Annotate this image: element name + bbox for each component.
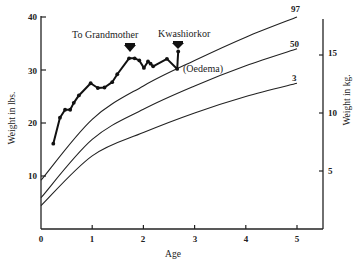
data-point <box>103 86 107 90</box>
x-tick-label-2: 2 <box>141 234 146 244</box>
x-tick-label-1: 1 <box>90 234 95 244</box>
data-point <box>77 94 81 98</box>
data-point <box>137 59 141 63</box>
oedema-spike <box>177 51 178 68</box>
y-tick-label-30: 30 <box>28 66 38 76</box>
annotation-to-grandmother: To Grandmother <box>72 29 139 40</box>
annotation-kwashiorkor: Kwashiorkor <box>158 28 211 39</box>
x-tick-label-3: 3 <box>193 234 198 244</box>
y-right-tick-label-5: 5 <box>328 166 333 176</box>
y-tick-label-40: 40 <box>28 12 38 22</box>
data-point <box>58 116 62 120</box>
data-point <box>115 72 119 76</box>
percentile-curve-3 <box>41 83 297 205</box>
y-right-tick-label-10: 10 <box>328 108 338 118</box>
y-tick-label-10: 10 <box>28 171 38 181</box>
y-right-tick-label-15: 15 <box>328 48 338 58</box>
ticks <box>41 17 323 229</box>
child-weight-series <box>51 50 180 146</box>
x-tick-label-5: 5 <box>295 234 300 244</box>
data-point <box>176 50 180 54</box>
y-axis-title-left: Weight in lbs. <box>7 92 17 145</box>
data-point <box>68 108 72 112</box>
weight-line <box>53 58 177 143</box>
data-point <box>151 64 155 68</box>
data-point <box>63 108 67 112</box>
growth-chart: 40 30 20 10 15 10 5 0 1 2 3 4 5 Age Weig… <box>0 0 357 264</box>
curve-label-50: 50 <box>290 39 300 49</box>
percentile-curve-50 <box>41 49 297 198</box>
down-arrow-icon <box>124 45 136 52</box>
annotation-oedema: (Oedema) <box>183 63 223 75</box>
data-point <box>96 86 100 90</box>
data-point <box>165 57 169 61</box>
percentile-curves <box>41 17 297 206</box>
percentile-curve-97 <box>41 17 297 180</box>
y-axis-title-right: Weight in kg. <box>342 74 352 125</box>
x-tick-label-4: 4 <box>244 234 249 244</box>
curve-label-97: 97 <box>291 4 301 14</box>
x-tick-label-0: 0 <box>39 234 44 244</box>
down-arrow-icon-bar <box>125 43 135 46</box>
data-point <box>72 101 76 105</box>
curve-label-3: 3 <box>292 73 297 83</box>
data-point <box>89 81 93 85</box>
data-point <box>133 56 137 60</box>
data-point <box>51 142 55 146</box>
data-point <box>175 67 179 71</box>
data-point <box>110 80 114 84</box>
y-tick-label-20: 20 <box>28 118 38 128</box>
x-axis-title: Age <box>165 249 181 259</box>
down-arrow-icon-bar <box>173 41 183 44</box>
data-point <box>142 66 146 70</box>
axes <box>41 16 323 229</box>
data-point <box>127 56 131 60</box>
